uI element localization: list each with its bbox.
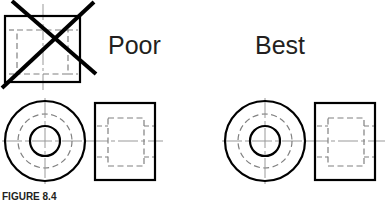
poor-circular-view-group	[2, 98, 88, 184]
poor-front-view-group	[2, 1, 96, 92]
figure-caption: FIGURE 8.4	[2, 192, 56, 202]
poor-side-view-group	[88, 103, 163, 180]
poor-label: Poor	[108, 33, 161, 58]
best-side-view-group	[308, 103, 385, 180]
best-circular-view-group	[222, 98, 308, 184]
best-label: Best	[255, 33, 305, 58]
figure-container: Poor Best FIGURE 8.4	[0, 0, 387, 204]
best-side-hidden-rectangle	[328, 118, 364, 166]
engineering-drawing-canvas	[0, 0, 387, 204]
poor-side-hidden-rectangle	[108, 118, 144, 166]
